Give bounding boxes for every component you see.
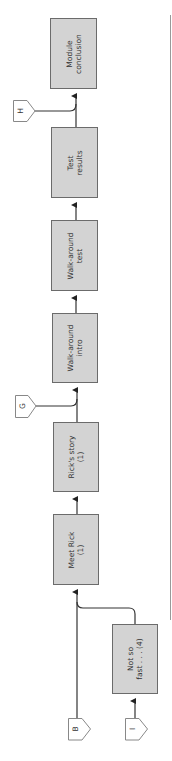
connector-tag-i: I: [129, 728, 137, 730]
node-label-line2: results: [75, 150, 84, 175]
line-notsofast-merge: [77, 602, 135, 624]
node-label-line1: Not so: [126, 638, 135, 679]
node-not-so-fast: Not sofast . . . (4): [112, 624, 158, 694]
node-label-line2: fast . . . (4): [135, 638, 144, 679]
node-label-line2: conclusion: [74, 34, 83, 74]
line-g-merge: [36, 399, 77, 406]
node-label-line1: Walk-around: [66, 324, 75, 371]
connector-tag-h: H: [17, 108, 25, 114]
node-walk-around-intro: Walk-aroundintro: [52, 313, 98, 383]
flowchart-diagram: H G B I Moduleconclusion Testresults Wal…: [0, 0, 172, 761]
node-label-line2: (1): [76, 531, 85, 568]
connector-tag-g: G: [19, 403, 27, 409]
node-label-line1: Rick's story: [67, 435, 76, 478]
node-label-line2: intro: [75, 324, 84, 371]
node-walk-around-test: Walk-aroundtest: [51, 220, 98, 291]
node-label-line1: Walk-around: [66, 232, 75, 279]
node-label-line2: test: [75, 232, 84, 279]
node-label-line1: Module: [65, 34, 74, 74]
node-label-line2: (1): [76, 435, 85, 478]
line-h-merge: [35, 104, 76, 111]
node-test-results: Testresults: [51, 127, 98, 198]
node-label-line1: Meet Rick: [67, 531, 76, 568]
node-meet-rick: Meet Rick(1): [53, 514, 99, 585]
node-module-conclusion: Moduleconclusion: [50, 18, 97, 89]
node-label-line1: Test: [66, 150, 75, 175]
connector-tag-b: B: [72, 726, 80, 731]
node-ricks-story: Rick's story(1): [53, 422, 99, 492]
